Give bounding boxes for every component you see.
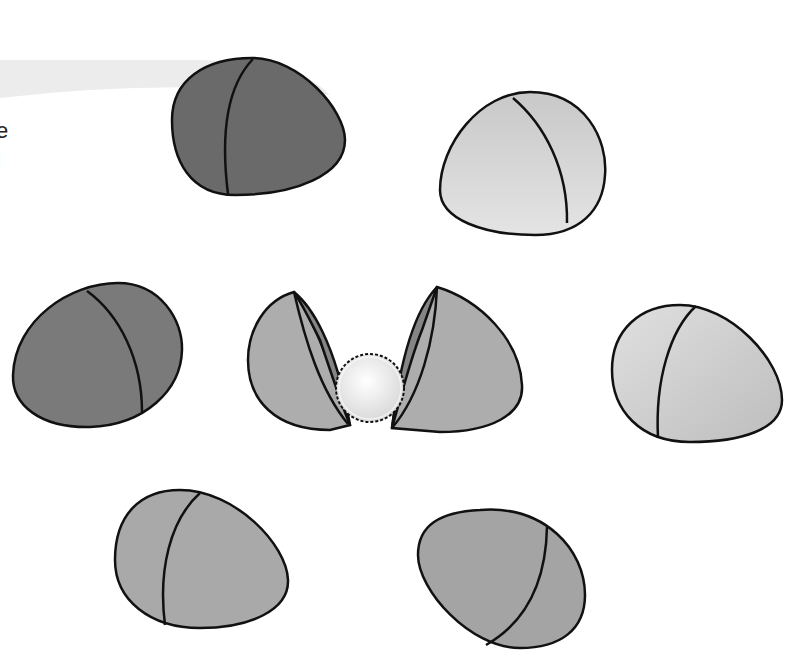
egg-light-middle-right [612,305,782,442]
cracked-egg [248,287,522,432]
fluffy-ball [336,354,404,422]
eggs-canvas [0,0,792,656]
egg-illustration: e l [0,0,792,656]
egg-dark-middle-left [13,283,182,427]
egg-medium-bottom-right [418,510,585,648]
egg-dark-top [172,58,345,195]
egg-light-top-right [440,92,605,235]
egg-medium-bottom-left [115,490,288,628]
